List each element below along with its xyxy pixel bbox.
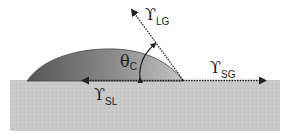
theta-c-label: θC bbox=[120, 52, 137, 71]
solid-substrate bbox=[10, 80, 280, 131]
gamma-sl-label: ϒSL bbox=[94, 85, 117, 104]
gamma-lg-label: ϒLG bbox=[145, 5, 169, 24]
gamma-sg-label: ϒSG bbox=[210, 58, 235, 77]
liquid-droplet bbox=[27, 49, 183, 81]
